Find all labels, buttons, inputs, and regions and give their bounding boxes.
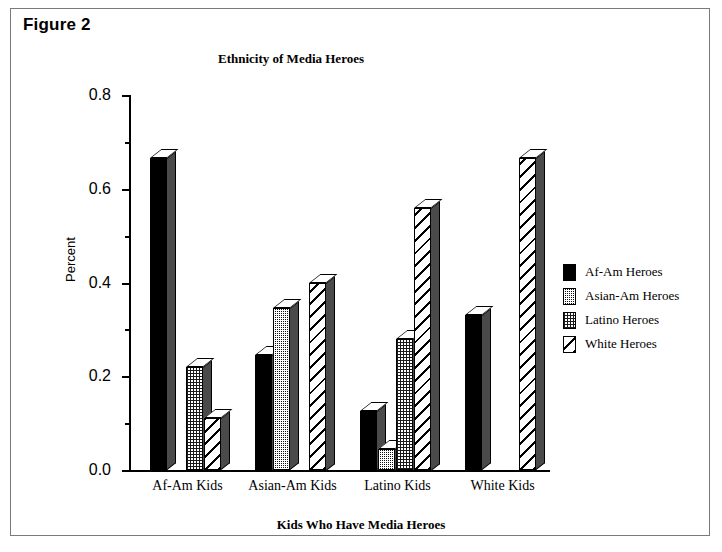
- bar[interactable]: [204, 418, 221, 470]
- bar-side-face: [482, 308, 491, 470]
- bar-front-face: [465, 315, 482, 470]
- bar-front-face: [378, 449, 395, 470]
- y-tick-major: 0.0: [122, 470, 129, 472]
- bar[interactable]: [465, 315, 482, 470]
- y-axis-line: [129, 95, 131, 470]
- legend-item[interactable]: Af-Am Heroes: [563, 260, 679, 284]
- y-tick-major: 0.2: [122, 376, 129, 378]
- bar-front-face: [255, 355, 272, 470]
- bar-front-face: [519, 158, 536, 470]
- bar[interactable]: [414, 208, 431, 471]
- y-axis-title: Percent: [63, 237, 78, 282]
- legend-swatch-solid: [563, 264, 576, 281]
- y-tick-minor: [125, 329, 129, 331]
- bar-side-face: [221, 411, 230, 470]
- bar[interactable]: [396, 339, 413, 470]
- bar[interactable]: [186, 367, 203, 470]
- x-axis-label-4: White Kids: [470, 478, 534, 494]
- legend-swatch-dark-stipple: [563, 288, 576, 305]
- x-axis-line: [129, 470, 550, 472]
- bar-side-face: [167, 151, 176, 470]
- bar-front-face: [204, 418, 221, 470]
- bar[interactable]: [378, 449, 395, 470]
- y-tick-minor: [125, 236, 129, 238]
- y-tick-major: 0.8: [122, 95, 129, 97]
- y-tick-minor: [125, 423, 129, 425]
- bar-front-face: [150, 158, 167, 470]
- legend-swatch-diagonal-hatch: [563, 336, 576, 353]
- legend-item[interactable]: Latino Heroes: [563, 308, 679, 332]
- y-tick-label: 0.0: [89, 461, 111, 479]
- bar-side-face: [536, 151, 545, 470]
- bar-front-face: [396, 339, 413, 470]
- bar[interactable]: [309, 283, 326, 471]
- legend-swatch-light-stipple: [563, 312, 576, 329]
- bar[interactable]: [360, 411, 377, 470]
- y-tick-label: 0.4: [89, 274, 111, 292]
- bar[interactable]: [150, 158, 167, 470]
- bar-front-face: [414, 208, 431, 471]
- bar-front-face: [273, 308, 290, 470]
- figure-frame: Figure 2 Ethnicity of Media Heroes Perce…: [10, 8, 710, 536]
- legend-label: Af-Am Heroes: [585, 264, 663, 280]
- y-tick-major: 0.4: [122, 283, 129, 285]
- legend-label: Latino Heroes: [585, 312, 659, 328]
- bar[interactable]: [255, 355, 272, 470]
- bar-side-face: [290, 301, 299, 470]
- x-axis-title: Kids Who Have Media Heroes: [11, 517, 711, 533]
- bar-front-face: [360, 411, 377, 470]
- x-axis-label-3: Latino Kids: [364, 478, 431, 494]
- legend-label: White Heroes: [585, 336, 657, 352]
- legend-label: Asian-Am Heroes: [585, 288, 679, 304]
- bar-front-face: [186, 367, 203, 470]
- chart-title: Ethnicity of Media Heroes: [11, 51, 571, 67]
- y-tick-label: 0.2: [89, 367, 111, 385]
- bar-front-face: [309, 283, 326, 471]
- plot-area: 0.00.20.40.60.8 Af-Am KidsAsian-Am KidsL…: [129, 95, 549, 470]
- bar-side-face: [431, 200, 440, 470]
- bar[interactable]: [519, 158, 536, 470]
- bar[interactable]: [273, 308, 290, 470]
- x-axis-label-2: Asian-Am Kids: [248, 478, 336, 494]
- legend-item[interactable]: Asian-Am Heroes: [563, 284, 679, 308]
- y-tick-label: 0.8: [89, 86, 111, 104]
- y-tick-minor: [125, 142, 129, 144]
- x-axis-label-1: Af-Am Kids: [152, 478, 222, 494]
- chart-legend: Af-Am HeroesAsian-Am HeroesLatino Heroes…: [563, 260, 679, 356]
- bar-side-face: [326, 275, 335, 470]
- y-tick-label: 0.6: [89, 180, 111, 198]
- figure-label: Figure 2: [23, 15, 91, 35]
- legend-item[interactable]: White Heroes: [563, 332, 679, 356]
- y-tick-major: 0.6: [122, 189, 129, 191]
